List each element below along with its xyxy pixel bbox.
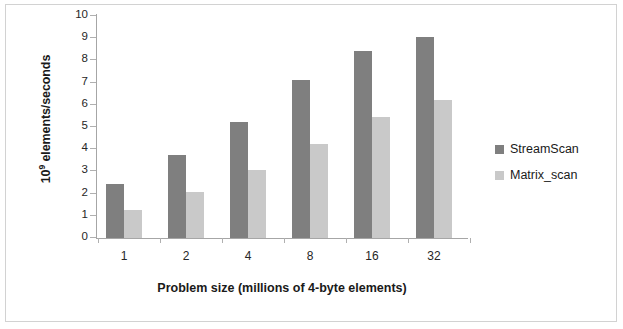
y-axis-tick-label: 1: [62, 209, 88, 221]
bar-matrix-scan-8[interactable]: [310, 144, 328, 238]
y-axis-tick-label: 7: [62, 76, 88, 88]
bar-group: [168, 16, 204, 238]
bar-group: [106, 16, 142, 238]
y-axis-tick-label: 5: [62, 120, 88, 132]
bar-group: [354, 16, 390, 238]
x-axis-tick-label: 4: [226, 250, 270, 262]
y-axis-tick-mark: [90, 193, 96, 194]
bar-group: [292, 16, 328, 238]
x-axis-tick-mark: [98, 238, 99, 243]
y-axis-tick-mark: [90, 82, 96, 83]
y-axis-tick-mark: [90, 126, 96, 127]
plot-area: [96, 16, 468, 238]
legend-item-matrix-scan[interactable]: Matrix_scan: [495, 162, 615, 188]
x-axis-tick-mark: [222, 238, 223, 243]
y-axis-title-exponent: 9: [37, 165, 47, 170]
x-axis-tick-mark: [408, 238, 409, 243]
x-axis-tick-label: 1: [102, 250, 146, 262]
x-axis-tick-labels: 12481632: [96, 250, 468, 270]
y-axis-tick-mark: [90, 104, 96, 105]
y-axis-tick-label: 9: [62, 31, 88, 43]
y-axis-tick-label: 6: [62, 98, 88, 110]
x-axis-title: Problem size (millions of 4-byte element…: [96, 281, 468, 295]
bar-matrix-scan-4[interactable]: [248, 170, 266, 238]
bar-streamscan-2[interactable]: [168, 155, 186, 238]
bar-matrix-scan-1[interactable]: [124, 210, 142, 238]
bar-group: [416, 16, 452, 238]
y-axis-tick-label: 3: [62, 164, 88, 176]
y-axis-tick-mark: [90, 148, 96, 149]
x-axis-tick-label: 32: [412, 250, 456, 262]
x-axis-tick-label: 2: [164, 250, 208, 262]
bar-matrix-scan-32[interactable]: [434, 100, 452, 238]
x-axis-tick-label: 8: [288, 250, 332, 262]
y-axis-tick-mark: [90, 15, 96, 16]
y-axis-tick-mark: [90, 170, 96, 171]
bar-streamscan-8[interactable]: [292, 80, 310, 238]
bar-streamscan-16[interactable]: [354, 51, 372, 238]
x-axis-line: [96, 238, 468, 239]
bar-matrix-scan-2[interactable]: [186, 192, 204, 238]
y-axis-tick-label: 4: [62, 142, 88, 154]
bar-streamscan-32[interactable]: [416, 37, 434, 238]
y-axis-tick-label: 10: [62, 9, 88, 21]
y-axis-title-rest: elements/seconds: [39, 55, 53, 165]
x-axis-tick-label: 16: [350, 250, 394, 262]
bar-chart-figure: 109 elements/seconds 109876543210 124816…: [0, 0, 623, 329]
legend-label: StreamScan: [510, 142, 579, 156]
legend-swatch-icon: [495, 145, 504, 154]
chart-legend: StreamScanMatrix_scan: [495, 136, 615, 188]
legend-item-streamscan[interactable]: StreamScan: [495, 136, 615, 162]
x-axis-tick-mark: [346, 238, 347, 243]
legend-label: Matrix_scan: [510, 168, 577, 182]
y-axis-tick-labels: 109876543210: [58, 0, 88, 260]
x-axis-tick-mark: [470, 238, 471, 243]
y-axis-tick-label: 2: [62, 187, 88, 199]
bar-matrix-scan-16[interactable]: [372, 117, 390, 238]
y-axis-tick-label: 0: [62, 231, 88, 243]
y-axis-title: 109 elements/seconds: [39, 9, 59, 229]
bar-streamscan-4[interactable]: [230, 122, 248, 238]
y-axis-title-base: 10: [39, 170, 53, 184]
bar-group: [230, 16, 266, 238]
y-axis-tick-label: 8: [62, 53, 88, 65]
legend-swatch-icon: [495, 171, 504, 180]
y-axis-tick-mark: [90, 37, 96, 38]
bar-streamscan-1[interactable]: [106, 184, 124, 238]
x-axis-tick-mark: [284, 238, 285, 243]
y-axis-tick-mark: [90, 237, 96, 238]
y-axis-tick-mark: [90, 215, 96, 216]
y-axis-tick-mark: [90, 59, 96, 60]
x-axis-tick-mark: [160, 238, 161, 243]
